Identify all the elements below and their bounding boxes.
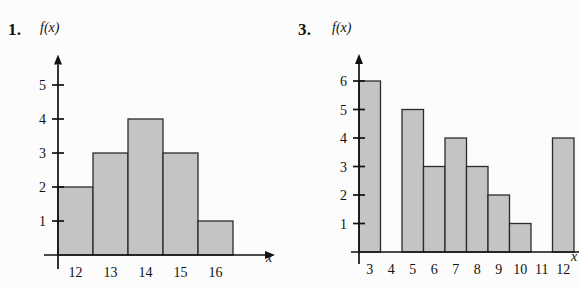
bar xyxy=(488,195,510,252)
x-tick-label: 16 xyxy=(209,265,223,280)
histogram-3: 1234563456789101112 xyxy=(290,0,579,287)
y-tick-label: 2 xyxy=(39,180,46,195)
plot-area-3: 1234563456789101112 xyxy=(290,0,579,287)
y-tick-label: 5 xyxy=(340,103,347,118)
bar xyxy=(402,110,424,253)
y-tick-label: 1 xyxy=(39,214,46,229)
y-tick-label: 1 xyxy=(340,217,347,232)
x-tick-label: 6 xyxy=(431,262,438,277)
x-tick-label: 13 xyxy=(104,265,118,280)
bar xyxy=(424,167,446,253)
y-tick-label: 5 xyxy=(39,78,46,93)
bar xyxy=(467,167,489,253)
x-tick-label: 14 xyxy=(139,265,153,280)
x-tick-label: 10 xyxy=(513,262,527,277)
bar xyxy=(93,153,128,255)
y-tick-label: 4 xyxy=(340,131,347,146)
x-tick-label: 12 xyxy=(556,262,570,277)
x-tick-group: 1213141516 xyxy=(69,265,223,280)
bar xyxy=(163,153,198,255)
bar xyxy=(198,221,233,255)
x-tick-label: 11 xyxy=(535,262,548,277)
bar xyxy=(128,119,163,255)
y-tick-label: 2 xyxy=(340,188,347,203)
y-tick-label: 3 xyxy=(39,146,46,161)
bar xyxy=(445,138,467,252)
y-tick-label: 4 xyxy=(39,112,46,127)
x-tick-label: 9 xyxy=(495,262,502,277)
figure-3: 3. f(x) x 1234563456789101112 xyxy=(290,0,579,287)
y-tick-label: 6 xyxy=(340,74,347,89)
bars-group xyxy=(58,119,233,255)
x-tick-label: 12 xyxy=(69,265,83,280)
y-tick-label: 3 xyxy=(340,160,347,175)
plot-area-1: 123451213141516 xyxy=(0,0,290,287)
figure-1: 1. f(x) x 123451213141516 xyxy=(0,0,290,287)
bars-group xyxy=(359,81,574,252)
x-tick-label: 5 xyxy=(409,262,416,277)
x-tick-label: 3 xyxy=(366,262,373,277)
x-tick-group: 3456789101112 xyxy=(366,262,570,277)
x-tick-label: 4 xyxy=(388,262,395,277)
x-tick-label: 15 xyxy=(174,265,188,280)
x-tick-label: 7 xyxy=(452,262,459,277)
histogram-1: 123451213141516 xyxy=(0,0,290,287)
bar xyxy=(553,138,575,252)
x-tick-label: 8 xyxy=(474,262,481,277)
bar xyxy=(510,224,532,253)
